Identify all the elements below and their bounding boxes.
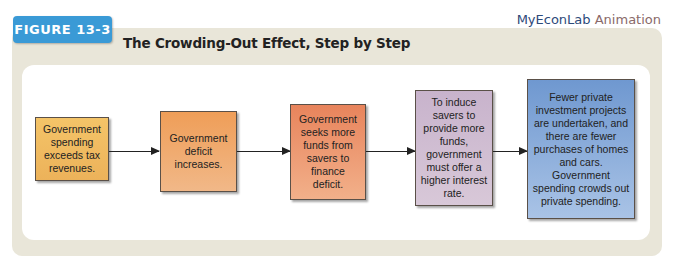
step-4-box: To induce savers to provide more funds, …: [415, 90, 493, 206]
step-2-box: Government deficit increases.: [160, 111, 237, 192]
arrow-1-2: [109, 151, 159, 152]
figure-title: The Crowding-Out Effect, Step by Step: [123, 35, 410, 51]
arrow-4-5: [493, 151, 527, 152]
step-5-text: Fewer private investment projects are un…: [532, 91, 630, 208]
step-2-text: Government deficit increases.: [165, 132, 232, 171]
brand-suffix: Animation: [595, 12, 661, 27]
brand-name: MyEconLab: [517, 12, 591, 27]
step-4-text: To induce savers to provide more funds, …: [420, 96, 488, 200]
step-1-text: Government spending exceeds tax revenues…: [40, 123, 104, 175]
arrow-2-3: [237, 151, 290, 152]
arrow-3-4: [366, 151, 415, 152]
step-3-text: Government seeks more funds from savers …: [295, 113, 361, 191]
figure-label: FIGURE 13-3: [13, 16, 112, 43]
step-5-box: Fewer private investment projects are un…: [527, 79, 635, 219]
step-3-box: Government seeks more funds from savers …: [290, 104, 366, 200]
step-1-box: Government spending exceeds tax revenues…: [35, 117, 109, 181]
myeconlab-animation-link[interactable]: MyEconLab Animation: [517, 12, 661, 27]
